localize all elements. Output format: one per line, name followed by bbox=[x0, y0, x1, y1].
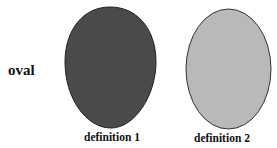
ellipse-shape-definition-2 bbox=[186, 9, 271, 129]
label-definition-2: definition 2 bbox=[194, 132, 250, 144]
shapes-canvas bbox=[0, 0, 277, 148]
label-definition-1: definition 1 bbox=[84, 131, 140, 143]
egg-shape-definition-1 bbox=[65, 7, 156, 128]
